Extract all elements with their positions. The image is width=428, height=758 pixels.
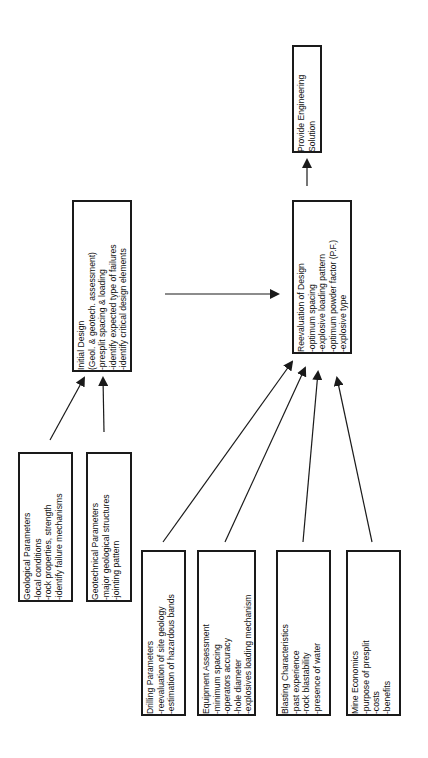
node-title: Geotechnical Parameters [90,458,101,600]
node-line: -past experience [291,556,302,714]
node-line: -reevaluation of site geology [156,556,167,714]
node-provide-engineering-solution: Provide Engineering Solution [292,45,322,153]
node-line: Solution [307,50,318,152]
arrow-geotechnical-to-initial [103,378,104,432]
node-line: -identify failure mechanisms [54,458,65,600]
node-line: -explosive type [338,206,349,352]
arrow-economics-to-reevaluation [337,378,372,542]
node-title: Mine Economics [350,556,361,714]
node-line: -rock blastability [301,556,312,714]
node-drilling-parameters: Drilling Parameters -reevaluation of sit… [141,550,186,716]
node-line: -optimum spacing [307,206,318,352]
node-line: (Geol. & geotech. assessment) [87,206,98,370]
node-line: -identify critical design elements [118,206,129,370]
arrow-geological-to-initial [50,378,84,440]
node-line: -estimation of hazardous bands [166,556,177,714]
node-line: -jointing pattern [111,458,122,600]
node-geological-parameters: Geological Parameters -local conditions … [18,452,73,602]
node-reevaluation-of-design: Reevaluation of Design -optimum spacing … [292,200,352,354]
arrow-blasting-to-reevaluation [303,372,318,542]
arrow-drilling-to-reevaluation [163,362,292,542]
node-title: Drilling Parameters [145,556,156,714]
node-line: -purpose of presplit [361,556,372,714]
node-line: -explosive loading pattern [317,206,328,352]
node-title: Blasting Characteristics [280,556,291,714]
node-title: Equipment Assessment [201,556,212,714]
node-geotechnical-parameters: Geotechnical Parameters -major geologica… [86,452,132,602]
node-blasting-characteristics: Blasting Characteristics -past experienc… [276,550,331,716]
arrow-equipment-to-reevaluation [225,368,305,542]
node-title: Reevaluation of Design [296,206,307,352]
node-line: -presence of water [312,556,323,714]
node-initial-design: Initial Design (Geol. & geotech. assessm… [72,200,132,372]
node-line: -major geological structures [101,458,112,600]
node-line: -operators accuracy [222,556,233,714]
node-line: -identify expected type of failures [108,206,119,370]
node-equipment-assessment: Equipment Assessment -minimum spacing -o… [197,550,256,716]
node-line: -presplit spacing & loading [97,206,108,370]
node-line: -costs [371,556,382,714]
node-title: Provide Engineering [296,50,307,152]
node-title: Initial Design [76,206,87,370]
node-line: -explosives loading mechanism [243,556,254,714]
node-line: -hole diameter [233,556,244,714]
node-mine-economics: Mine Economics -purpose of presplit -cos… [346,550,401,716]
node-line: -optimum powder factor (P.F.) [328,206,339,352]
node-title: Geological Parameters [22,458,33,600]
node-line: -minimum spacing [212,556,223,714]
node-line: -local conditions [33,458,44,600]
node-line: -rock properties, strength [43,458,54,600]
node-line: -benefits [382,556,393,714]
